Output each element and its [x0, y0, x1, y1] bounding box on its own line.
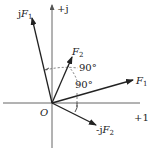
label-F2: F2 [71, 46, 83, 59]
angle-label-upper: 90° [79, 62, 97, 73]
angle-label-lower: 90° [75, 79, 93, 90]
label-jF1: jF1 [17, 8, 33, 21]
label-F1: F1 [135, 75, 147, 88]
angle-arc-upper [46, 67, 78, 70]
phasor-diagram: +j +1 O jF1 F2 F1 -jF2 90° 90° [0, 0, 148, 155]
vector-F2 [52, 57, 72, 103]
real-axis-label: +1 [134, 112, 148, 123]
origin-label: O [40, 107, 48, 118]
label-minus-jF2: -jF2 [96, 124, 114, 137]
imag-axis-label: +j [57, 3, 68, 14]
angle-arc-small [75, 103, 77, 112]
vector-jF1 [32, 18, 52, 103]
vector-minus-jF2 [52, 103, 96, 125]
